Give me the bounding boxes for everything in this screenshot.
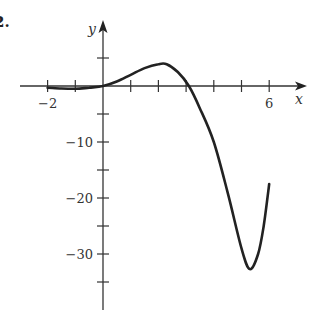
function-graph: 2. −26−10−20−30 x y [0,0,316,316]
y-tick-label: −20 [66,191,93,206]
y-axis-label: y [87,21,97,37]
x-axis-label: x [295,91,303,107]
x-tick-label: 6 [265,96,273,111]
problem-number: 2. [0,13,10,31]
y-tick-label: −30 [66,247,93,262]
data-curve [48,63,270,269]
y-tick-label: −10 [66,135,93,150]
x-tick-label: −2 [38,96,57,111]
